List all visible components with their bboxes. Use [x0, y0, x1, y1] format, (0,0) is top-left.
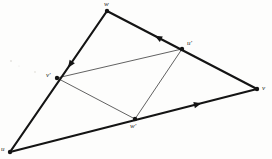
vertex-label-w: w	[104, 1, 109, 8]
vertex-label-vp: v′	[46, 72, 51, 79]
vertex-label-v: v	[262, 85, 265, 92]
vertex-dot-up	[180, 47, 184, 51]
vertex-dot-w	[105, 9, 109, 13]
geometry-figure: uwvu′v′w′	[0, 0, 272, 159]
triangle-diagram-canvas	[0, 0, 272, 159]
inner-edge-vp-wp	[57, 78, 135, 119]
scan-speck	[34, 71, 36, 73]
vertex-dot-vp	[55, 76, 59, 80]
scan-speck	[10, 60, 12, 62]
vertex-dot-wp	[133, 117, 137, 121]
vertex-label-up: u′	[187, 40, 192, 47]
vertex-dot-u	[8, 150, 12, 154]
vertex-dot-v	[255, 87, 259, 91]
scan-speck	[18, 65, 19, 66]
vertex-label-u: u	[1, 146, 5, 153]
vertex-label-wp: w′	[130, 123, 136, 130]
inner-edge-wp-up	[135, 49, 182, 119]
inner-edge-vp-up	[57, 49, 182, 78]
